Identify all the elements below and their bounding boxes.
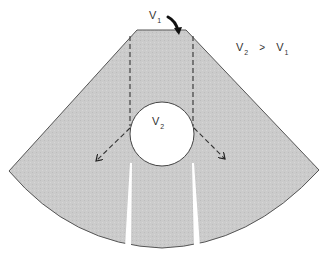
circular-structure [130, 102, 194, 166]
greater-than-operator: > [259, 42, 265, 53]
label-v2-circle: V2 [152, 116, 164, 130]
label-v1: V1 [149, 10, 161, 24]
velocity-relation: V2 > V1 [236, 42, 288, 56]
ultrasound-sector-diagram [0, 0, 329, 256]
